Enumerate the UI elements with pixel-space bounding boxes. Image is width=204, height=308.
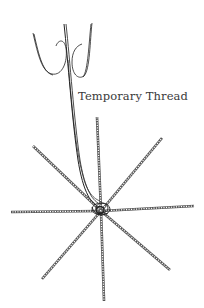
spoke-upper-left	[33, 146, 101, 211]
spoke-lower-left	[42, 211, 101, 279]
spoke-top	[97, 117, 101, 211]
weaving-diagram: Temporary Thread	[0, 0, 204, 308]
spoke-right	[101, 206, 194, 211]
temporary-thread	[33, 23, 110, 215]
spoke-upper-right	[101, 138, 162, 211]
spokes	[11, 117, 194, 301]
temporary-thread-label: Temporary Thread	[78, 89, 188, 103]
spoke-star-illustration	[0, 0, 204, 308]
spoke-left	[11, 211, 101, 212]
spoke-bottom	[101, 211, 104, 301]
spoke-lower-right	[101, 211, 170, 270]
